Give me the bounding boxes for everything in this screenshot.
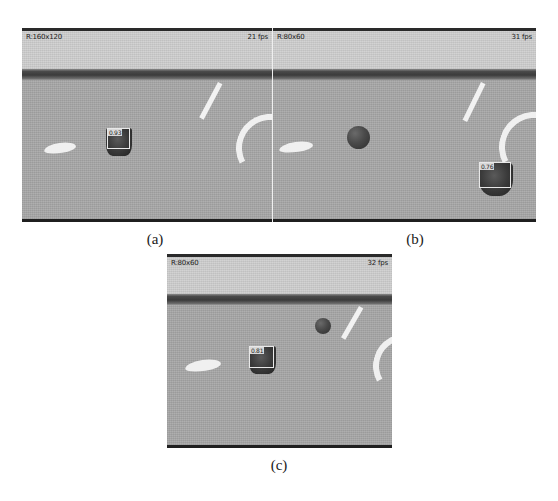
panel-a-b-divider <box>272 28 273 222</box>
camera-panel-c: 0.81 R:80x60 32 fps <box>167 254 392 448</box>
panel-b-sky-region <box>273 31 536 69</box>
panel-c-bbox-confidence-label: 0.81 <box>250 347 264 354</box>
panel-a-hud-framerate: 21 fps <box>248 33 269 42</box>
panel-c-hud-resolution: R:80x60 <box>171 259 199 268</box>
panel-c-field-region <box>167 305 392 445</box>
panel-b-hud-resolution: R:80x60 <box>277 33 305 42</box>
camera-panel-a: 0.93 R:160x120 21 fps <box>22 28 272 222</box>
panel-b-field-region <box>273 80 536 219</box>
panel-b-tracked-object: 0.76 <box>479 162 513 196</box>
panel-a-wall-band <box>22 69 272 80</box>
camera-panel-a-viewport: 0.93 R:160x120 21 fps <box>22 28 272 222</box>
panel-c-wall-band <box>167 294 392 305</box>
panel-b-hud-framerate: 31 fps <box>512 33 533 42</box>
panel-c-ball <box>315 318 331 334</box>
panel-b-wall-band <box>273 69 536 80</box>
panel-c-tracked-object: 0.81 <box>249 346 276 374</box>
camera-panel-b: 0.76 R:80x60 31 fps <box>273 28 536 222</box>
camera-panel-c-viewport: 0.81 R:80x60 32 fps <box>167 254 392 448</box>
panel-a-tracked-object: 0.93 <box>106 128 132 156</box>
figure-root: 0.93 R:160x120 21 fps 0.76 <box>0 0 558 501</box>
panel-c-hud-framerate: 32 fps <box>368 259 389 268</box>
caption-panel-c: (c) <box>264 457 294 474</box>
panel-a-bbox-confidence-label: 0.93 <box>108 129 122 136</box>
panel-b-frame-bottom <box>273 219 536 222</box>
caption-panel-b: (b) <box>400 231 430 248</box>
caption-panel-a: (a) <box>140 231 170 248</box>
panel-a-hud-resolution: R:160x120 <box>26 33 62 42</box>
panel-c-frame-bottom <box>167 445 392 448</box>
panel-b-bbox-confidence-label: 0.76 <box>480 163 494 170</box>
panel-c-sky-region <box>167 257 392 294</box>
panel-b-ball <box>347 126 370 149</box>
camera-panel-b-viewport: 0.76 R:80x60 31 fps <box>273 28 536 222</box>
panel-a-frame-bottom <box>22 219 272 222</box>
